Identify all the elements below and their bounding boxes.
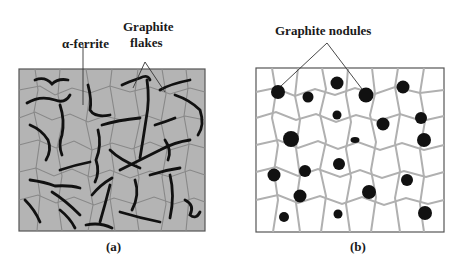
label-alpha-ferrite: α-ferrite — [62, 37, 109, 51]
label-flakes: flakes — [130, 36, 163, 50]
label-graphite-nodules: Graphite nodules — [275, 24, 371, 38]
caption-b: (b) — [350, 240, 366, 254]
label-graphite: Graphite — [123, 20, 174, 34]
panel-b-ductile-iron — [256, 43, 444, 232]
caption-a: (a) — [106, 240, 121, 254]
panel-a-gray-iron — [19, 45, 205, 231]
